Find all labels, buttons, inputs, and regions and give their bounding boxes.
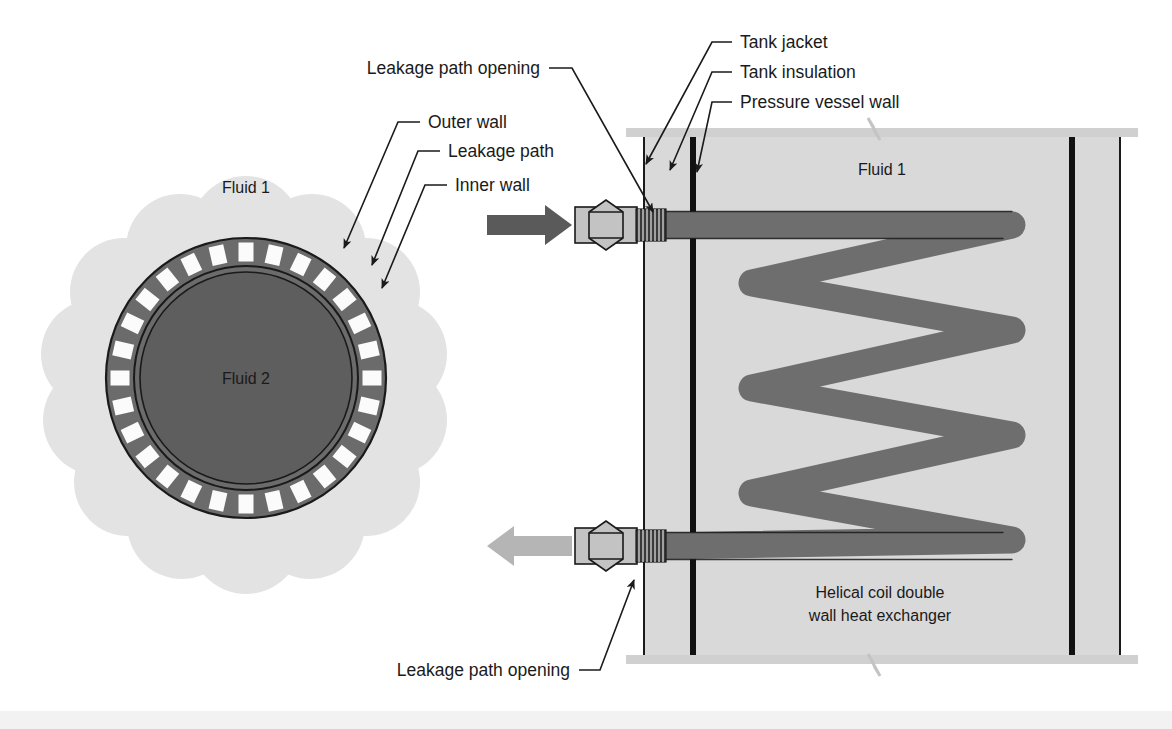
inlet-flow-arrow — [487, 205, 572, 245]
exchanger-label-line2: wall heat exchanger — [808, 607, 952, 624]
label-leakage-path-opening-bottom: Leakage path opening — [397, 660, 570, 680]
label-leakage-path-opening-top: Leakage path opening — [367, 58, 540, 78]
leader-leakage-path-opening-bottom — [579, 580, 634, 670]
label-outer-wall: Outer wall — [428, 112, 507, 132]
outlet-hex-nut — [589, 521, 623, 571]
label-inner-wall: Inner wall — [455, 175, 530, 195]
exchanger-label-line1: Helical coil double — [816, 584, 945, 601]
inlet-hex-nut — [589, 200, 623, 250]
label-pressure-vessel-wall: Pressure vessel wall — [740, 92, 900, 112]
outlet-flow-arrow — [487, 526, 572, 566]
page-bottom-band — [0, 711, 1172, 729]
leakage-path-gap — [239, 243, 254, 262]
outlet-thread-lines — [639, 530, 663, 562]
tank-bottom-band — [626, 655, 1138, 664]
tank-fluid1-label: Fluid 1 — [858, 161, 906, 178]
diagram-canvas: Fluid 1 Fluid 2 — [0, 0, 1172, 729]
tank-elevation-view: Fluid 1 Helical coil double wall heat ex… — [487, 118, 1138, 676]
cross-section-fluid2-label: Fluid 2 — [222, 370, 270, 387]
tank-top-band — [626, 128, 1138, 137]
figure-root: Fluid 1 Fluid 2 — [0, 0, 1172, 729]
label-leakage-path: Leakage path — [448, 141, 554, 161]
leader-leakage-path-opening-top — [549, 68, 653, 212]
label-tank-jacket: Tank jacket — [740, 32, 828, 52]
leakage-path-gap — [363, 371, 382, 386]
label-tank-insulation: Tank insulation — [740, 62, 856, 82]
inlet-thread-lines — [639, 209, 663, 241]
leakage-path-gap — [239, 495, 254, 514]
leakage-path-gap — [111, 371, 130, 386]
cross-section-fluid1-label: Fluid 1 — [222, 179, 270, 196]
cross-section-view: Fluid 1 Fluid 2 — [41, 176, 447, 594]
